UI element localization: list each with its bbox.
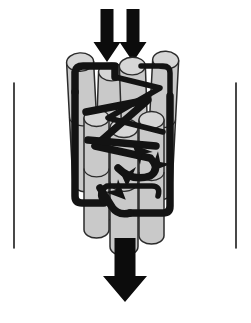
- helix-g-body: [139, 120, 164, 244]
- diagram-canvas: Schematic of a transmembrane channel pro…: [0, 0, 251, 323]
- inflow-arrow-right: [120, 9, 147, 62]
- inflow-arrow-group: [94, 9, 147, 62]
- inflow-arrow-left: [94, 9, 121, 62]
- helix-e: [84, 110, 109, 239]
- figure-root: Schematic of a transmembrane channel pro…: [0, 0, 251, 323]
